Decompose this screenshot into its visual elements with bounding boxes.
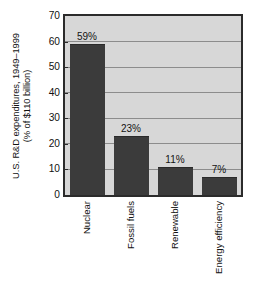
y-axis-title: U.S. R&D expenditures, 1949–1999 (% of $… <box>4 14 38 197</box>
bar[interactable] <box>114 136 149 195</box>
x-axis-category-label: Nuclear <box>80 199 94 293</box>
x-axis-category-label: Renewable <box>168 199 182 293</box>
y-axis-tick-label: 30 <box>38 113 60 123</box>
x-axis-category-label: Energy efficiency <box>212 199 226 293</box>
y-axis-tick-label: 20 <box>38 139 60 149</box>
y-axis-tick-mark <box>63 144 68 145</box>
bar-value-label: 11% <box>158 154 192 165</box>
y-axis-tick-mark <box>63 118 68 119</box>
y-axis-tick-mark <box>63 93 68 94</box>
y-axis-tick-label: 60 <box>38 37 60 47</box>
bar[interactable] <box>158 167 193 195</box>
x-axis-category-text: Energy efficiency <box>214 201 224 274</box>
y-axis-title-line2: (% of $110 billion) <box>21 33 32 179</box>
x-axis-category-labels: NuclearFossil fuelsRenewableEnergy effic… <box>63 199 243 293</box>
y-axis-tick-label: 0 <box>38 190 60 200</box>
bar-value-label: 23% <box>114 123 148 134</box>
x-axis-category-label: Fossil fuels <box>124 199 138 293</box>
y-axis-tick-label: 70 <box>38 11 60 21</box>
y-axis-tick-mark <box>63 67 68 68</box>
x-axis-category-text: Renewable <box>170 201 180 249</box>
bar-value-label: 7% <box>202 164 236 175</box>
x-axis-category-text: Nuclear <box>82 201 92 234</box>
y-axis-tick-mark <box>63 42 68 43</box>
bar[interactable] <box>70 44 105 195</box>
x-axis-category-text: Fossil fuels <box>126 201 136 249</box>
y-axis-tick-label: 10 <box>38 164 60 174</box>
y-axis-tick-labels: 010203040506070 <box>37 14 60 197</box>
y-axis-tick-mark <box>63 169 68 170</box>
y-axis-tick-label: 40 <box>38 88 60 98</box>
y-axis-title-line1: U.S. R&D expenditures, 1949–1999 <box>10 33 21 179</box>
bar-value-label: 59% <box>70 31 104 42</box>
y-axis-tick-label: 50 <box>38 62 60 72</box>
bar-chart-figure: U.S. R&D expenditures, 1949–1999 (% of $… <box>0 0 253 293</box>
bar[interactable] <box>202 177 237 195</box>
